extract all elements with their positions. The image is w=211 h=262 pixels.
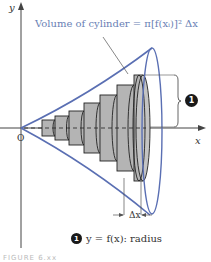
delta-x-arrow-left-icon	[119, 213, 124, 217]
legend: 1 y = f(x): radius	[71, 233, 162, 244]
delta-x-arrow-right-icon	[141, 213, 146, 217]
x-axis-label: x	[195, 135, 201, 146]
x-axis-arrow-icon	[198, 125, 206, 131]
y-axis-arrow-icon	[18, 2, 24, 10]
formula-label: Volume of cylinder = π[f(xᵢ)]² Δx	[35, 18, 198, 29]
formula-leader-line	[103, 37, 128, 74]
origin-label: O	[17, 133, 24, 143]
y-axis-label: y	[9, 2, 15, 13]
solid-of-revolution-diagram	[0, 0, 211, 262]
legend-text: y = f(x): radius	[86, 233, 162, 244]
figure-caption: FIGURE 6.xx	[3, 254, 57, 262]
callout-number-badge: 1	[185, 94, 198, 107]
delta-x-label: Δx	[129, 210, 141, 220]
legend-number-badge: 1	[71, 233, 82, 244]
radius-brace	[174, 75, 181, 127]
